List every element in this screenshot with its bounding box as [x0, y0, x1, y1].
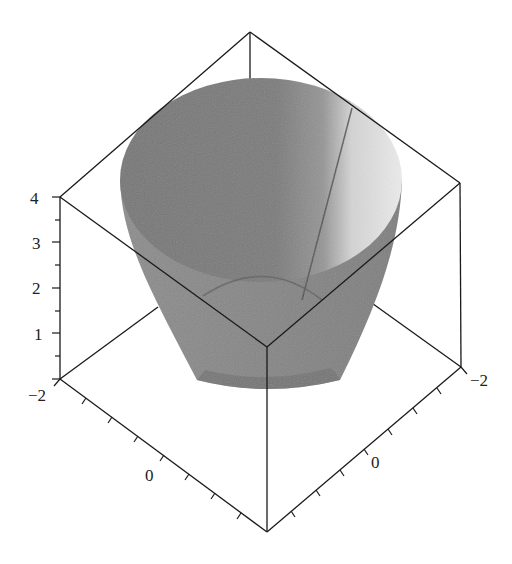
3d-surface-plot: 4 3 2 1 −2 0 −2 0: [0, 0, 512, 564]
z-tick-label-3: 3: [32, 234, 41, 253]
y-axis-ticks: [291, 367, 467, 517]
x-tick-label-zero: 0: [145, 466, 154, 485]
y-tick-label-zero: 0: [371, 453, 380, 472]
z-tick-label-1: 1: [34, 325, 43, 344]
x-axis-ticks: [54, 379, 241, 519]
x-tick-label-min: −2: [28, 386, 46, 405]
z-axis-ticks: [52, 197, 60, 379]
z-tick-label-2: 2: [32, 279, 41, 298]
y-tick-label-min: −2: [470, 371, 488, 390]
z-tick-label-4: 4: [30, 189, 39, 208]
